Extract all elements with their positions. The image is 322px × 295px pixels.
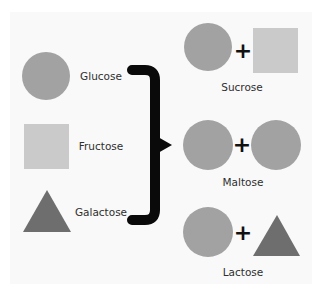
sucrose-plus-icon: + [234,40,252,62]
lactose-galactose-triangle-icon [253,215,300,256]
glucose-circle-icon [22,52,70,100]
carbohydrate-diagram [0,0,322,295]
lactose-label: Lactose [223,266,264,278]
maltose-glucose-circle-icon-1 [183,120,233,170]
sucrose-fructose-square-icon [253,28,298,73]
galactose-label: Galactose [75,206,127,218]
lactose-glucose-circle-icon [183,207,233,257]
bracket-pointer-icon [158,137,172,153]
sucrose-label: Sucrose [221,81,263,93]
galactose-triangle-icon [23,190,71,232]
fructose-label: Fructose [79,140,124,152]
maltose-plus-icon: + [233,134,251,156]
sucrose-glucose-circle-icon [184,23,232,71]
lactose-plus-icon: + [234,222,252,244]
maltose-glucose-circle-icon-2 [251,120,301,170]
fructose-square-icon [24,124,69,169]
bracket-connector [132,70,155,220]
maltose-label: Maltose [223,176,264,188]
glucose-label: Glucose [80,70,122,82]
